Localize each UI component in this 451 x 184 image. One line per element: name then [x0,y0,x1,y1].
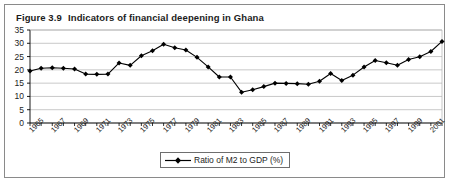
data-point-marker [373,58,378,63]
data-point-marker [272,81,277,86]
data-point-marker [250,87,255,92]
data-point-marker [295,81,300,86]
data-point-marker [417,54,422,59]
chart-legend: Ratio of M2 to GDP (%) [160,152,290,168]
y-tick-label: 25 [4,52,24,62]
legend-label: Ratio of M2 to GDP (%) [194,155,283,165]
y-tick-label: 5 [4,105,24,115]
chart-plot-area: 05101520253035 1965196719691971197319751… [0,0,451,184]
data-point-marker [339,78,344,83]
data-point-marker [395,63,400,68]
y-tick-label: 0 [4,118,24,128]
data-point-marker [50,65,55,70]
data-point-marker [406,57,411,62]
data-point-marker [150,48,155,53]
data-point-marker [72,67,77,72]
y-tick-label: 20 [4,65,24,75]
data-point-marker [161,42,166,47]
data-point-marker [261,84,266,89]
data-point-marker [384,60,389,65]
data-point-marker [306,82,311,87]
data-point-marker [83,72,88,77]
y-tick-label: 35 [4,25,24,35]
legend-marker-icon [165,156,191,165]
data-point-marker [28,68,33,73]
y-tick-label: 30 [4,38,24,48]
y-tick-label: 10 [4,91,24,101]
data-point-marker [284,81,289,86]
data-point-marker [172,45,177,50]
data-point-marker [94,72,99,77]
y-tick-label: 15 [4,78,24,88]
series-line [30,41,442,92]
